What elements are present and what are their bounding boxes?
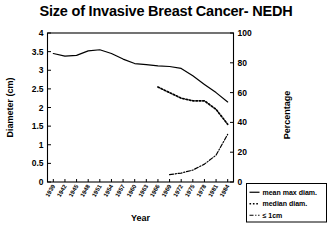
data-series-group	[53, 50, 227, 175]
legend-label-1: median diam.	[263, 200, 308, 207]
chart-container: Size of Invasive Breast Cancer- NEDH 00.…	[0, 0, 332, 233]
series-line-2	[170, 134, 228, 174]
x-axis-title: Year	[131, 213, 151, 223]
x-tick-label: 1939	[44, 183, 56, 198]
x-tick-label: 1948	[79, 183, 91, 198]
x-tick-label: 1966	[149, 183, 161, 198]
series-line-1	[158, 87, 228, 124]
x-tick-label: 1981	[207, 183, 219, 198]
y2-axis-title: Percentage	[282, 91, 292, 140]
x-tick-label: 1984	[219, 183, 231, 198]
y-tick-label: 1	[39, 140, 44, 150]
y-tick-label: 0.5	[32, 158, 44, 168]
y-tick-label: 0	[39, 177, 44, 187]
x-tick-label: 1945	[68, 183, 80, 198]
chart-plot: 00.511.522.533.54 020406080100 193919421…	[0, 0, 332, 233]
x-tick-label: 1942	[56, 183, 68, 198]
y-axis-ticks: 00.511.522.533.54	[32, 28, 51, 187]
x-tick-label: 1969	[161, 183, 173, 198]
x-tick-label: 1972	[172, 183, 184, 198]
y-tick-label: 2.5	[32, 84, 44, 94]
y2-tick-label: 0	[238, 177, 243, 187]
y-tick-label: 3.5	[32, 47, 44, 57]
legend-label-0: mean max diam.	[263, 189, 318, 196]
y-axis-title: Diameter (cm)	[5, 77, 15, 137]
x-tick-label: 1960	[126, 183, 138, 198]
x-tick-label: 1954	[102, 183, 114, 198]
y-tick-label: 2	[39, 103, 44, 113]
y2-tick-label: 20	[238, 147, 248, 157]
x-tick-label: 1963	[137, 183, 149, 198]
legend-label-2: ≤ 1cm	[263, 212, 283, 219]
series-line-0	[53, 50, 227, 102]
y2-tick-label: 80	[238, 58, 248, 68]
x-tick-label: 1978	[195, 183, 207, 198]
x-tick-label: 1951	[91, 183, 103, 198]
y2-tick-label: 60	[238, 88, 248, 98]
y2-tick-label: 40	[238, 117, 248, 127]
y-tick-label: 3	[39, 65, 44, 75]
y-tick-label: 1.5	[32, 121, 44, 131]
x-tick-label: 1957	[114, 183, 126, 198]
chart-legend: mean max diam.median diam.≤ 1cm	[247, 184, 327, 223]
y-tick-label: 4	[39, 28, 44, 38]
y2-tick-label: 100	[238, 28, 252, 38]
x-tick-label: 1975	[184, 183, 196, 198]
